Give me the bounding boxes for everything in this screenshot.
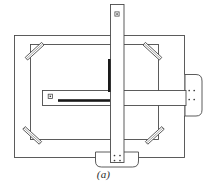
vertical-dark-bar — [108, 59, 111, 92]
right-connection-tab — [185, 75, 203, 117]
pivot-marker-left — [48, 94, 52, 98]
horizontal-dark-bar — [58, 99, 110, 102]
figure-caption: (a) — [0, 168, 207, 180]
pivot-marker-top — [115, 12, 119, 16]
vertical-beam — [108, 5, 124, 163]
figure-container: (a) — [0, 0, 207, 193]
technical-drawing — [0, 0, 207, 193]
